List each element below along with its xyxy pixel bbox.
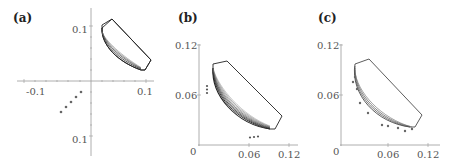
region-polygon-b [213,61,282,129]
y-tick-label-c-006: 0.06 [317,90,339,101]
x-tick-label-c-006: 0.06 [377,149,399,160]
panel-label-b: (b) [178,11,198,25]
panel-b: (b) 0.12 0.06 0 0.06 0.12 [175,11,300,160]
x-tick-label-b-006: 0.06 [238,149,260,160]
x-tick-label-c-0: 0 [333,146,339,157]
x-tick-label-a-neg: -0.1 [26,86,45,97]
y-tick-label-c-012: 0.12 [317,40,339,51]
data-points-a [60,91,83,114]
x-tick-label-a-pos: 0.1 [137,86,153,97]
figure-canvas: (a) 0.1 -0.1 0.1 0.1 [0,0,456,167]
region-polygon-c [354,59,422,127]
panel-a: (a) 0.1 -0.1 0.1 0.1 [13,8,154,156]
x-tick-label-c-012: 0.12 [417,149,439,160]
y-tick-label-a-top: 0.1 [72,24,88,35]
y-tick-label-b-012: 0.12 [175,40,197,51]
y-tick-label-a-bottom: 0.1 [72,134,88,145]
y-tick-label-b-006: 0.06 [175,90,197,101]
panel-label-a: (a) [13,11,32,25]
panel-label-c: (c) [318,11,337,25]
x-tick-label-b-012: 0.12 [278,149,300,160]
x-tick-label-b-0: 0 [190,146,196,157]
region-polygon-a [102,19,151,70]
panel-c: (c) 0.12 0.06 0 0.06 0.12 [317,11,440,160]
figure: (a) 0.1 -0.1 0.1 0.1 [0,0,456,167]
